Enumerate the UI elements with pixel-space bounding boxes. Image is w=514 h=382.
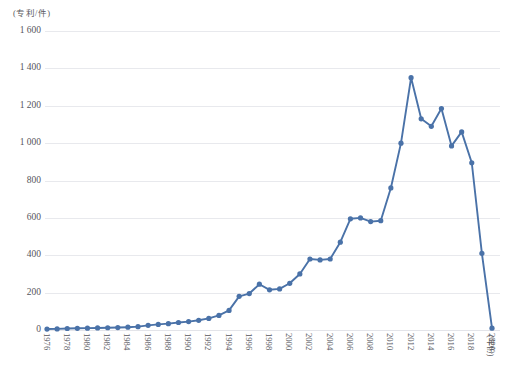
data-point (368, 219, 373, 224)
data-point (85, 326, 90, 331)
y-axis-tick-label: 1 200 (3, 101, 41, 111)
data-point (328, 256, 333, 261)
data-point (479, 251, 484, 256)
gridline (45, 330, 500, 331)
data-point (156, 322, 161, 327)
data-point (226, 308, 231, 313)
data-point (257, 282, 262, 287)
data-point (408, 75, 413, 80)
data-point (237, 294, 242, 299)
data-point (419, 116, 424, 121)
x-axis-tick-label: 2006 (345, 333, 354, 350)
data-point (166, 321, 171, 326)
y-axis-tick-label: 600 (3, 213, 41, 223)
data-point (398, 141, 403, 146)
x-axis-tick-label: 2012 (406, 333, 415, 350)
data-point (75, 326, 80, 331)
x-axis-tick-label: 1978 (62, 333, 71, 350)
y-axis-unit-label: (专利/件) (13, 6, 50, 18)
x-axis-tick-label: 1980 (82, 333, 91, 350)
x-axis-tick-label: 1982 (103, 333, 112, 350)
x-axis-tick-label: 2002 (305, 333, 314, 350)
data-point (459, 129, 464, 134)
data-point (287, 281, 292, 286)
series-markers (44, 75, 494, 332)
data-point (439, 106, 444, 111)
data-point (186, 319, 191, 324)
y-axis-tick-label: 400 (3, 250, 41, 260)
x-axis-tick-label: 2004 (325, 333, 334, 350)
data-point (125, 325, 130, 330)
data-point (348, 216, 353, 221)
x-axis-tick-label: 1988 (163, 333, 172, 350)
data-point (115, 325, 120, 330)
chart-container: (专利/件) 02004006008001 0001 2001 4001 600… (0, 0, 514, 382)
y-axis-tick-label: 0 (3, 325, 41, 335)
data-point (469, 160, 474, 165)
data-point (95, 325, 100, 330)
x-axis-unit-label: (年份) (486, 335, 494, 356)
x-axis-tick-label: 2008 (366, 333, 375, 350)
x-axis-tick-label: 1976 (42, 333, 51, 350)
data-point (358, 215, 363, 220)
data-point (44, 326, 49, 331)
data-point (216, 313, 221, 318)
x-axis-tick-labels: 1976197819801982198419861988199019921994… (45, 333, 500, 375)
x-axis-tick-label: 2018 (467, 333, 476, 350)
data-point (388, 185, 393, 190)
x-axis-tick-label: 1992 (204, 333, 213, 350)
data-point (247, 291, 252, 296)
data-point (338, 240, 343, 245)
x-axis-tick-label: 1998 (264, 333, 273, 350)
data-point (267, 287, 272, 292)
data-point (307, 256, 312, 261)
data-point (105, 325, 110, 330)
y-axis-tick-label: 200 (3, 288, 41, 298)
data-point (206, 316, 211, 321)
x-axis-tick-label: 2016 (446, 333, 455, 350)
data-point (146, 323, 151, 328)
data-point (317, 257, 322, 262)
data-point (176, 320, 181, 325)
y-axis-tick-label: 800 (3, 176, 41, 186)
x-axis-tick-label: 2014 (426, 333, 435, 350)
y-axis-tick-labels: 02004006008001 0001 2001 4001 600 (0, 31, 41, 330)
data-point (55, 326, 60, 331)
data-point (135, 324, 140, 329)
data-point (277, 286, 282, 291)
x-axis-tick-label: 1984 (123, 333, 132, 350)
data-point (429, 124, 434, 129)
line-series-svg (45, 31, 500, 330)
x-axis-tick-label: 1990 (183, 333, 192, 350)
y-axis-tick-label: 1 400 (3, 63, 41, 73)
x-axis-tick-label: 2010 (386, 333, 395, 350)
x-axis-tick-label: 1994 (224, 333, 233, 350)
plot-area (45, 31, 500, 330)
x-axis-tick-label: 2000 (285, 333, 294, 350)
y-axis-tick-label: 1 000 (3, 138, 41, 148)
data-point (196, 318, 201, 323)
y-axis-tick-label: 1 600 (3, 26, 41, 36)
x-axis-tick-label: 1996 (244, 333, 253, 350)
x-axis-tick-label: 1986 (143, 333, 152, 350)
data-point (449, 143, 454, 148)
data-point (297, 271, 302, 276)
data-point (378, 218, 383, 223)
data-point (65, 326, 70, 331)
data-point (489, 326, 494, 331)
